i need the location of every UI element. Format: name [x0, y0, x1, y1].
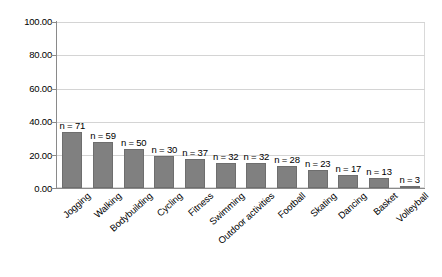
bars-layer: n = 71n = 59n = 50n = 30n = 37n = 32n = …	[57, 22, 425, 188]
bar-value-label: n = 23	[305, 159, 330, 169]
bar[interactable]	[154, 156, 174, 188]
bar[interactable]	[338, 175, 358, 188]
bar-slot: n = 32	[210, 22, 241, 188]
bar[interactable]	[216, 163, 236, 188]
bar-value-label: n = 71	[60, 121, 85, 131]
y-tick-label-80: 80.00	[2, 50, 52, 60]
bar[interactable]	[277, 166, 297, 188]
bar-value-label: n = 32	[244, 152, 269, 162]
y-tick-label-0: 0.00	[2, 184, 52, 194]
category-label: Jogging	[61, 190, 93, 220]
bar-value-label: n = 59	[90, 131, 115, 141]
bar-slot: n = 32	[241, 22, 272, 188]
bar-value-label: n = 30	[152, 145, 177, 155]
category-label: Dancing	[336, 190, 369, 221]
category-labels: JoggingWalkingBodybuildingCyclingFitness…	[57, 190, 425, 277]
category-label: Skating	[307, 190, 337, 219]
category-label: Outdoor activities	[216, 190, 277, 246]
bar[interactable]	[369, 178, 389, 188]
bar-value-label: n = 3	[399, 175, 419, 185]
bar-slot: n = 37	[180, 22, 211, 188]
y-tick-label-100: 100.00	[2, 17, 52, 27]
bar-value-label: n = 50	[121, 138, 146, 148]
bar-value-label: n = 13	[366, 167, 391, 177]
bar-value-label: n = 32	[213, 152, 238, 162]
bar-slot: n = 3	[394, 22, 425, 188]
y-tick-label-40: 40.00	[2, 117, 52, 127]
bar[interactable]	[400, 186, 420, 188]
bar[interactable]	[308, 170, 328, 188]
category-label: Volleyball	[393, 190, 429, 224]
bar-chart: 100.00 80.00 60.00 40.00 20.00 0.00 n = …	[0, 0, 442, 277]
bar-slot: n = 17	[333, 22, 364, 188]
bar-slot: n = 23	[302, 22, 333, 188]
bar-slot: n = 13	[364, 22, 395, 188]
bar-slot: n = 59	[88, 22, 119, 188]
bar-value-label: n = 17	[336, 164, 361, 174]
bar[interactable]	[62, 132, 82, 188]
bar-slot: n = 71	[57, 22, 88, 188]
bar-value-label: n = 28	[274, 155, 299, 165]
x-axis-line	[57, 188, 425, 189]
bar-value-label: n = 37	[182, 148, 207, 158]
category-label: Cycling	[155, 190, 185, 219]
bar[interactable]	[246, 163, 266, 188]
category-label: Basket	[371, 190, 400, 217]
category-label: Football	[275, 190, 307, 220]
bar-slot: n = 30	[149, 22, 180, 188]
y-tick-label-60: 60.00	[2, 84, 52, 94]
y-tick-label-20: 20.00	[2, 151, 52, 161]
bar-slot: n = 28	[272, 22, 303, 188]
bar[interactable]	[185, 159, 205, 188]
bar-slot: n = 50	[118, 22, 149, 188]
bar[interactable]	[93, 142, 113, 188]
bar[interactable]	[124, 149, 144, 188]
